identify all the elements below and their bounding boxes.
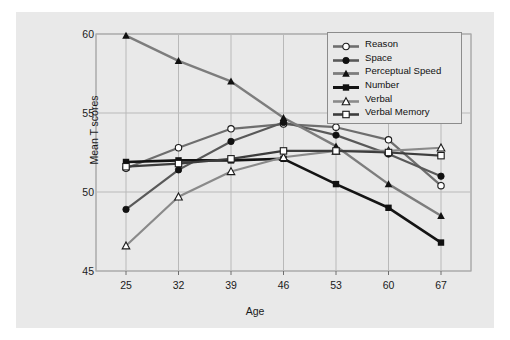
x-tick-label: 60 [383,279,395,291]
legend-item-perceptual-speed: Perceptual Speed [332,64,456,78]
legend-item-space: Space [332,51,456,65]
legend-label: Number [365,79,399,90]
x-tick-label: 39 [225,279,237,291]
legend-label: Verbal Memory [365,106,430,117]
legend-item-verbal: Verbal [332,91,456,105]
legend-key-open-square-icon [332,106,360,117]
legend-key-open-triangle-icon [332,93,360,104]
chart-figure: 45505560 25323946536067 Mean T scores Ag… [16,12,494,328]
x-tick-label: 46 [278,279,290,291]
data-point-filled-square [343,84,349,90]
legend-item-number: Number [332,78,456,92]
x-tick-label: 25 [120,279,132,291]
legend-item-reason: Reason [332,37,456,51]
legend-label: Verbal [365,93,392,104]
x-axis-title: Age [16,305,494,317]
chart-legend: ReasonSpacePerceptual SpeedNumberVerbalV… [327,32,462,124]
data-point-open-square [343,112,349,118]
legend-label: Reason [365,38,398,49]
legend-key-filled-triangle-icon [332,65,360,76]
x-tick-label: 32 [173,279,185,291]
legend-label: Space [365,52,392,63]
legend-item-verbal-memory: Verbal Memory [332,105,456,119]
legend-key-filled-circle-icon [332,52,360,63]
y-axis-title: Mean T scores [88,90,100,170]
legend-label: Perceptual Speed [365,65,441,76]
x-tick-label: 53 [330,279,342,291]
x-tick-label: 67 [435,279,447,291]
legend-key-filled-square-icon [332,79,360,90]
data-point-filled-circle [343,57,349,63]
data-point-open-circle [343,44,349,50]
legend-key-open-circle-icon [332,38,360,49]
